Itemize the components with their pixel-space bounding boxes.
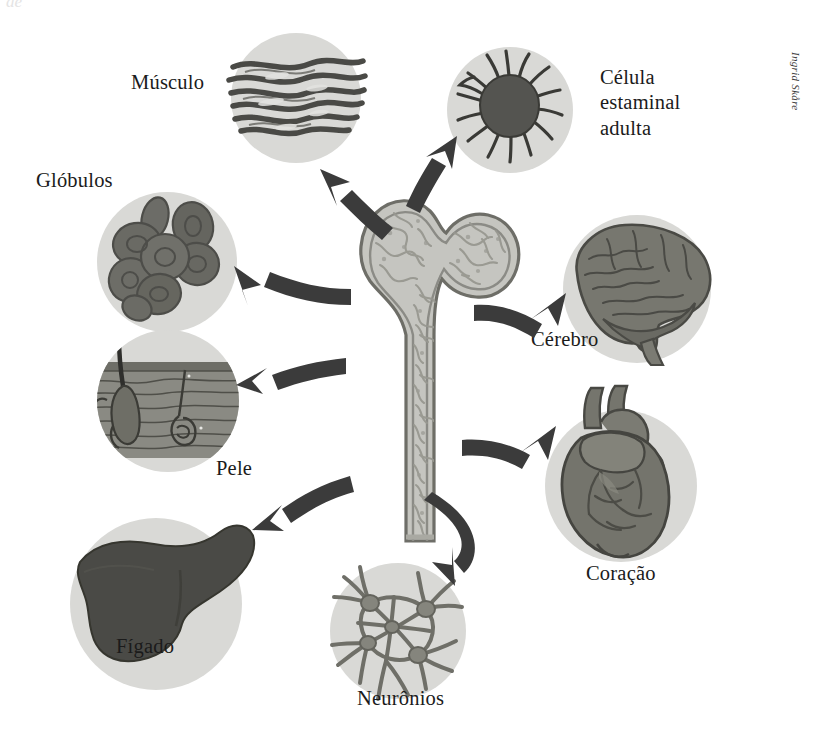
credit-text: Ingrid Skåre: [790, 52, 802, 111]
figure-canvas: de: [0, 0, 829, 746]
arrow-to-coracao: [462, 426, 556, 469]
arrow-to-globulos: [234, 266, 351, 306]
arrow-to-pele: [236, 358, 346, 394]
arrow-to-cerebro: [474, 293, 566, 338]
arrow-layer: [0, 0, 829, 746]
arrow-to-musculo: [320, 169, 393, 240]
arrow-to-figado: [252, 476, 354, 531]
arrow-to-stem-cell: [406, 136, 457, 213]
arrow-to-neuronios: [424, 492, 475, 586]
